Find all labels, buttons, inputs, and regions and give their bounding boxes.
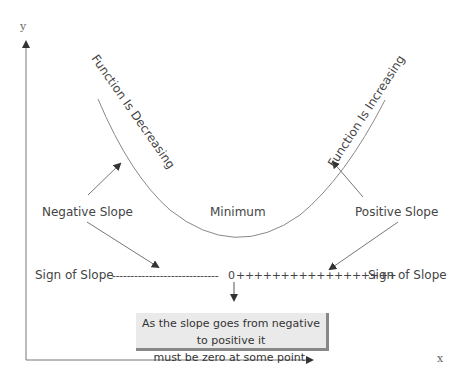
- y-axis-label: y: [20, 20, 26, 33]
- label-negative-slope: Negative Slope: [42, 205, 133, 219]
- x-axis-label: x: [437, 352, 443, 365]
- label-minimum: Minimum: [210, 205, 266, 219]
- arrow-positive-to-sign: [330, 222, 398, 269]
- sign-negative-marks: -----------------------------: [112, 269, 218, 282]
- sign-label-left: Sign of Slope: [35, 268, 114, 282]
- label-positive-slope: Positive Slope: [355, 205, 438, 219]
- note-line-1: As the slope goes from negative to posit…: [136, 315, 326, 349]
- note-box: As the slope goes from negative to posit…: [136, 313, 329, 351]
- note-line-2: must be zero at some point.: [136, 349, 326, 366]
- arrow-negative-to-sign: [87, 222, 158, 267]
- slope-diagram: y x Function Is Decreasing Function Is I…: [0, 0, 467, 383]
- arrow-negative-to-curve: [88, 164, 120, 195]
- sign-zero: 0: [228, 269, 235, 282]
- sign-label-right: Sign of Slope: [368, 268, 447, 282]
